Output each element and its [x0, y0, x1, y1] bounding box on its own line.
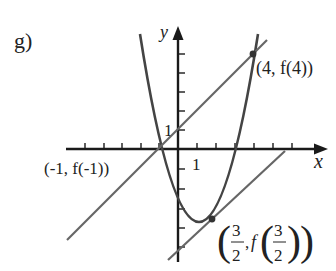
close-paren-outer: ) [300, 218, 314, 265]
close-paren-inner: ) [287, 218, 301, 265]
label-point-4: (4, f(4)) [256, 58, 313, 79]
graph-figure: g) x 1 [0, 0, 336, 271]
y-axis: y 1 [158, 22, 185, 262]
open-paren-inner: ( [260, 218, 274, 265]
comma: , [245, 233, 249, 252]
frac-den-2: 2 [274, 246, 283, 265]
frac-num-2: 3 [274, 221, 283, 240]
frac-den-1: 2 [232, 246, 241, 265]
label-point-4-text: (4, f(4)) [256, 58, 313, 79]
open-paren-outer: ( [217, 218, 231, 265]
x-axis-label: x [313, 150, 323, 172]
frac-num-1: 3 [232, 221, 241, 240]
y-axis-arrow-icon [173, 26, 184, 40]
label-point-minus1: (-1, f(-1)) [44, 159, 109, 178]
label-point-tangent: ( 3 2 , f ( 3 2 ) ) [217, 218, 314, 265]
part-label: g) [14, 28, 32, 53]
y-axis-label: y [158, 22, 168, 42]
function-f: f [251, 232, 259, 252]
point-4-f4 [250, 51, 257, 58]
x-unit-label: 1 [192, 155, 201, 174]
point-tangent [209, 216, 216, 223]
